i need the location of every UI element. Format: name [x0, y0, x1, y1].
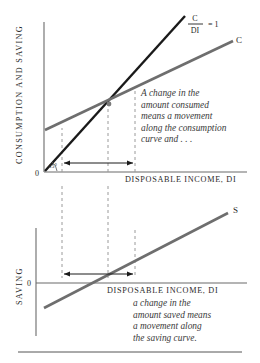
top-y-axis-label: CONSUMPTION AND SAVING [15, 25, 24, 164]
top-movement-arrow [64, 161, 133, 166]
intersection-point [107, 102, 112, 107]
bottom-origin-label: 0 [27, 279, 31, 288]
ratio-denominator: DI [191, 26, 200, 35]
bottom-x-axis-label: DISPOSABLE INCOME, DI [107, 286, 218, 295]
bottom-y-axis-label: SAVING [15, 267, 24, 305]
ratio-equals: = 1 [208, 20, 219, 29]
top-x-axis-label: DISPOSABLE INCOME, DI [125, 175, 236, 184]
bottom-annotation-text: a change in the amount saved means a mov… [133, 298, 257, 344]
top-origin-label: 0 [35, 169, 39, 178]
saving-curve-label: S [233, 205, 238, 215]
top-annotation-text: A change in the amount consumed means a … [141, 88, 259, 146]
consumption-curve-label: C [236, 35, 242, 45]
ratio-numerator: C [192, 14, 197, 23]
bottom-movement-arrow [64, 272, 133, 277]
angle-label: 45° [48, 162, 57, 169]
ratio-label: C DI = 1 [188, 14, 219, 35]
